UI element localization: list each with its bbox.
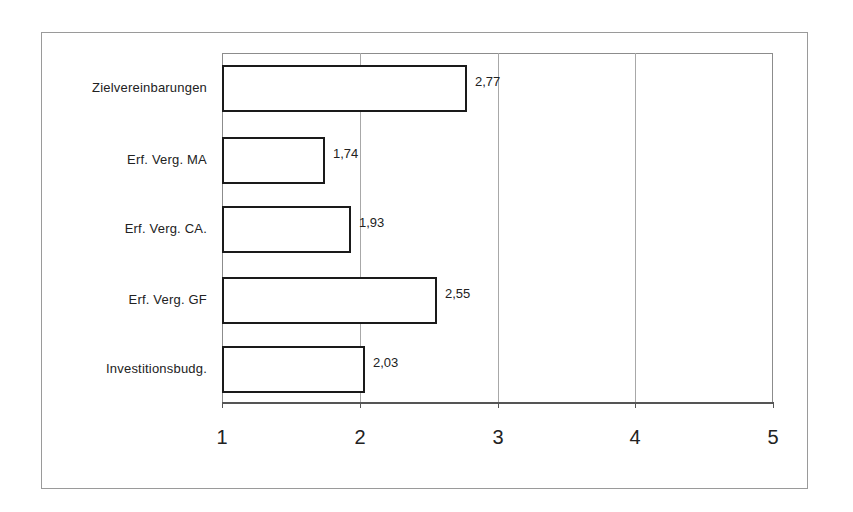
gridline <box>498 53 499 403</box>
value-label: 2,77 <box>475 74 500 89</box>
value-label: 1,93 <box>359 215 384 230</box>
bar <box>222 277 437 324</box>
category-label: Erf. Verg. GF <box>129 292 207 307</box>
value-label: 2,55 <box>445 286 470 301</box>
category-label: Erf. Verg. CA. <box>125 221 207 236</box>
x-tick-label: 4 <box>620 426 650 449</box>
x-tick-label: 3 <box>483 426 513 449</box>
category-label: Zielvereinbarungen <box>92 80 207 95</box>
x-tick <box>222 403 223 408</box>
x-tick <box>360 403 361 408</box>
bar <box>222 65 467 112</box>
x-tick-label: 1 <box>207 426 237 449</box>
x-tick <box>498 403 499 408</box>
x-tick-label: 2 <box>345 426 375 449</box>
value-label: 2,03 <box>373 355 398 370</box>
gridline <box>635 53 636 403</box>
x-tick-label: 5 <box>758 426 788 449</box>
x-tick <box>773 403 774 408</box>
bar <box>222 206 351 253</box>
bar <box>222 346 365 393</box>
category-label: Investitionsbudg. <box>106 361 207 376</box>
bar <box>222 137 325 184</box>
value-label: 1,74 <box>333 146 358 161</box>
x-tick <box>635 403 636 408</box>
category-label: Erf. Verg. MA <box>127 152 207 167</box>
